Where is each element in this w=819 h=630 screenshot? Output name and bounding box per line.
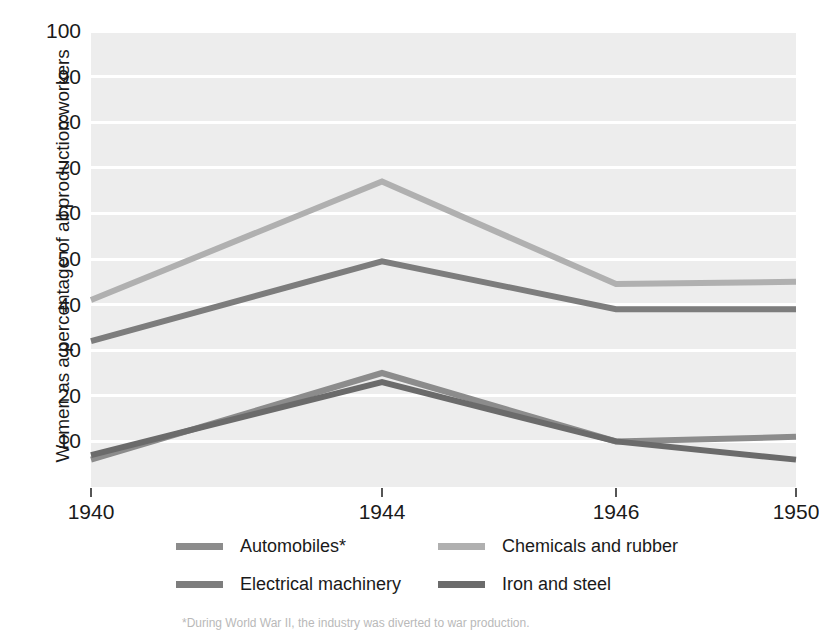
legend-swatch-icon [176,543,223,550]
y-tick-label: 70 [21,157,81,178]
legend-item[interactable]: Iron and steel [438,574,700,595]
x-tick-mark [90,488,92,497]
y-tick-label: 50 [21,248,81,269]
y-tick-label: 100 [21,20,81,41]
y-tick-label: 80 [21,111,81,132]
x-tick-label: 1940 [68,500,115,524]
y-tick-label: 30 [21,339,81,360]
x-tick-label: 1950 [773,500,819,524]
legend-swatch-icon [438,581,485,588]
legend-label: Iron and steel [502,574,611,595]
series-line [91,181,796,300]
y-tick-label: 10 [21,430,81,451]
series-line [91,261,796,341]
y-tick-label: 20 [21,385,81,406]
y-tick-label: 90 [21,66,81,87]
legend-item[interactable]: Chemicals and rubber [438,536,700,557]
x-tick-mark [381,488,383,497]
data-series-lines [91,31,796,487]
legend-swatch-icon [176,581,223,588]
legend-swatch-icon [438,543,485,550]
y-tick-label: 40 [21,294,81,315]
legend-label: Electrical machinery [240,574,401,595]
x-tick-mark [795,488,797,497]
x-tick-mark [615,488,617,497]
x-tick-label: 1944 [359,500,406,524]
chart-legend: Automobiles*Chemicals and rubberElectric… [176,536,736,595]
legend-label: Automobiles* [240,536,346,557]
legend-item[interactable]: Automobiles* [176,536,438,557]
plot-area [91,31,796,487]
chart-footnote: *During World War II, the industry was d… [182,616,529,630]
legend-item[interactable]: Electrical machinery [176,574,438,595]
y-tick-label: 60 [21,202,81,223]
legend-label: Chemicals and rubber [502,536,678,557]
x-tick-label: 1946 [593,500,640,524]
